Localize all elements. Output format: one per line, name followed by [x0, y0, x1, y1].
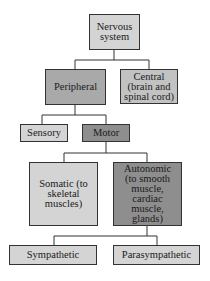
node-sensory: Sensory [20, 124, 68, 142]
node-peripheral: Peripheral [45, 69, 106, 105]
node-label: Parasympathetic [122, 250, 191, 260]
node-label: Peripheral [54, 82, 97, 92]
node-somatic: Somatic (to skeletal muscles) [29, 162, 98, 226]
node-label: Somatic (to skeletal muscles) [30, 179, 97, 209]
node-label: Sympathetic [27, 250, 80, 260]
node-label: Sensory [27, 128, 61, 138]
node-label: Nervous system [90, 22, 139, 42]
node-motor: Motor [82, 124, 130, 142]
node-label: Motor [93, 128, 119, 138]
node-parasympathetic: Parasympathetic [113, 245, 200, 265]
node-nervous-system: Nervous system [89, 14, 140, 50]
node-label: Central (brain and spinal cord) [121, 72, 177, 102]
node-central: Central (brain and spinal cord) [120, 69, 178, 104]
node-sympathetic: Sympathetic [9, 245, 97, 265]
node-label: Autonomic (to smooth muscle, cardiac mus… [114, 164, 181, 224]
node-autonomic: Autonomic (to smooth muscle, cardiac mus… [113, 162, 182, 226]
